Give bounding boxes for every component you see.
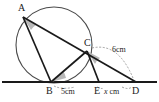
measure-label-BE: 5cm xyxy=(61,88,75,96)
dash-leader-ED-right xyxy=(122,87,132,89)
vertex-label-E: E xyxy=(94,86,100,96)
vertex-label-D: D xyxy=(132,86,139,96)
circle-through-ABC xyxy=(16,7,92,83)
measure-label-ED: x cm xyxy=(104,88,119,96)
geometry-figure: A B C E D 5cm x cm 6cm xyxy=(0,0,159,102)
vertex-label-C: C xyxy=(84,38,91,48)
vertex-label-A: A xyxy=(18,3,25,13)
measure-label-CD: 6cm xyxy=(112,46,126,54)
measure-unit-cm: cm xyxy=(108,87,120,96)
segment-B-C xyxy=(51,51,87,82)
vertex-label-B: B xyxy=(46,86,53,96)
